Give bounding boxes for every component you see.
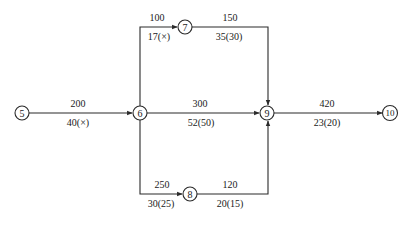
edge-9-10-capacity: 420 (320, 98, 335, 109)
edge-7-9-capacity: 150 (223, 12, 238, 23)
edge-6-9-cost-flow: 52(50) (188, 117, 215, 129)
node-10: 10 (383, 106, 398, 121)
edge-9-10: 420 23(20) (274, 98, 382, 129)
edge-9-10-cost-flow: 23(20) (314, 117, 341, 129)
node-7-label: 7 (183, 22, 188, 33)
edge-6-8-cost-flow: 30(25) (148, 198, 175, 210)
edge-7-9-cost-flow: 35(30) (216, 31, 243, 43)
node-8-label: 8 (188, 189, 193, 200)
edge-8-9-capacity: 120 (223, 179, 238, 190)
edge-8-9: 120 20(15) (197, 121, 268, 210)
edge-5-6-cost-flow: 40(×) (67, 117, 89, 129)
node-9-label: 9 (265, 108, 270, 119)
node-10-label: 10 (386, 108, 396, 118)
node-6-label: 6 (138, 108, 143, 119)
edge-7-9: 150 35(30) (192, 12, 268, 105)
node-8: 8 (183, 187, 197, 201)
edge-6-7: 100 17(×) (140, 12, 177, 106)
edge-6-8: 250 30(25) (140, 120, 182, 210)
network-diagram: 200 40(×) 100 17(×) 150 35(30) 300 52(50… (0, 0, 410, 225)
node-6: 6 (133, 106, 147, 120)
edge-6-9: 300 52(50) (147, 98, 259, 129)
edge-5-6: 200 40(×) (29, 98, 132, 129)
edge-6-7-capacity: 100 (150, 12, 165, 23)
node-5: 5 (15, 106, 29, 120)
edge-5-6-capacity: 200 (71, 98, 86, 109)
edge-6-8-capacity: 250 (155, 179, 170, 190)
node-7: 7 (178, 20, 192, 34)
edge-6-7-cost-flow: 17(×) (148, 31, 170, 43)
edge-8-9-cost-flow: 20(15) (217, 198, 244, 210)
node-9: 9 (260, 106, 274, 120)
edge-6-9-capacity: 300 (193, 98, 208, 109)
node-5-label: 5 (20, 108, 25, 119)
